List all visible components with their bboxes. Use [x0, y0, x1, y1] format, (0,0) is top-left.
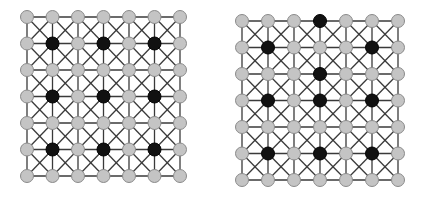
- grid-node: [174, 117, 187, 130]
- grid-node: [97, 64, 110, 77]
- highlighted-node: [46, 143, 59, 156]
- grid-node: [366, 68, 379, 81]
- grid-node: [392, 147, 405, 160]
- highlighted-node: [366, 147, 379, 160]
- grid-node: [46, 64, 59, 77]
- grid-node: [314, 174, 327, 187]
- grid-node: [392, 15, 405, 28]
- grid-node: [123, 11, 136, 24]
- grid-node: [314, 41, 327, 54]
- grid-node: [174, 143, 187, 156]
- grid-node: [148, 117, 161, 130]
- grid-node: [21, 117, 34, 130]
- grid-node: [46, 117, 59, 130]
- grid-node: [236, 68, 249, 81]
- grid-node: [340, 94, 353, 107]
- highlighted-node: [148, 143, 161, 156]
- highlighted-node: [262, 94, 275, 107]
- grid-node: [288, 68, 301, 81]
- grid-node: [21, 64, 34, 77]
- highlighted-node: [314, 94, 327, 107]
- grid-node: [366, 121, 379, 134]
- grid-diagrams: [0, 0, 421, 198]
- grid-node: [340, 68, 353, 81]
- grid-node: [174, 170, 187, 183]
- grid-node: [262, 68, 275, 81]
- grid-node: [288, 147, 301, 160]
- grid-node: [340, 15, 353, 28]
- grid-node: [174, 64, 187, 77]
- grid-node: [288, 94, 301, 107]
- grid-node: [174, 90, 187, 103]
- grid-node: [123, 37, 136, 50]
- grid-node: [288, 15, 301, 28]
- highlighted-node: [97, 90, 110, 103]
- grid-node: [262, 15, 275, 28]
- grid-node: [72, 64, 85, 77]
- grid-node: [97, 117, 110, 130]
- grid-node: [72, 37, 85, 50]
- diagram-canvas: [0, 0, 421, 198]
- grid-node: [340, 121, 353, 134]
- grid-node: [72, 117, 85, 130]
- grid-node: [46, 170, 59, 183]
- highlighted-node: [46, 90, 59, 103]
- grid-node: [392, 41, 405, 54]
- grid-node: [72, 11, 85, 24]
- grid-node: [72, 170, 85, 183]
- highlighted-node: [262, 147, 275, 160]
- highlighted-node: [97, 37, 110, 50]
- grid-node: [72, 143, 85, 156]
- grid-node: [236, 174, 249, 187]
- right-grid-graph: [236, 15, 405, 187]
- grid-node: [21, 170, 34, 183]
- grid-node: [288, 41, 301, 54]
- grid-node: [392, 68, 405, 81]
- grid-node: [236, 41, 249, 54]
- grid-node: [97, 170, 110, 183]
- grid-node: [288, 121, 301, 134]
- grid-node: [366, 174, 379, 187]
- grid-node: [72, 90, 85, 103]
- grid-node: [148, 170, 161, 183]
- highlighted-node: [97, 143, 110, 156]
- highlighted-node: [148, 37, 161, 50]
- highlighted-node: [314, 68, 327, 81]
- grid-node: [392, 174, 405, 187]
- highlighted-node: [314, 147, 327, 160]
- grid-node: [46, 11, 59, 24]
- grid-node: [236, 94, 249, 107]
- left-grid-graph: [21, 11, 187, 183]
- grid-node: [148, 11, 161, 24]
- grid-node: [392, 121, 405, 134]
- grid-node: [236, 15, 249, 28]
- highlighted-node: [46, 37, 59, 50]
- grid-node: [262, 121, 275, 134]
- grid-node: [340, 147, 353, 160]
- grid-node: [236, 147, 249, 160]
- grid-node: [392, 94, 405, 107]
- grid-node: [148, 64, 161, 77]
- grid-node: [236, 121, 249, 134]
- highlighted-node: [366, 94, 379, 107]
- grid-node: [21, 90, 34, 103]
- grid-node: [123, 90, 136, 103]
- grid-node: [21, 37, 34, 50]
- grid-node: [174, 37, 187, 50]
- grid-node: [366, 15, 379, 28]
- grid-node: [97, 11, 110, 24]
- grid-node: [174, 11, 187, 24]
- grid-node: [288, 174, 301, 187]
- grid-node: [340, 174, 353, 187]
- grid-node: [262, 174, 275, 187]
- grid-node: [123, 64, 136, 77]
- grid-node: [21, 11, 34, 24]
- highlighted-node: [262, 41, 275, 54]
- grid-node: [123, 143, 136, 156]
- highlighted-node: [366, 41, 379, 54]
- highlighted-node: [314, 15, 327, 28]
- highlighted-node: [148, 90, 161, 103]
- grid-node: [123, 170, 136, 183]
- grid-node: [340, 41, 353, 54]
- grid-node: [314, 121, 327, 134]
